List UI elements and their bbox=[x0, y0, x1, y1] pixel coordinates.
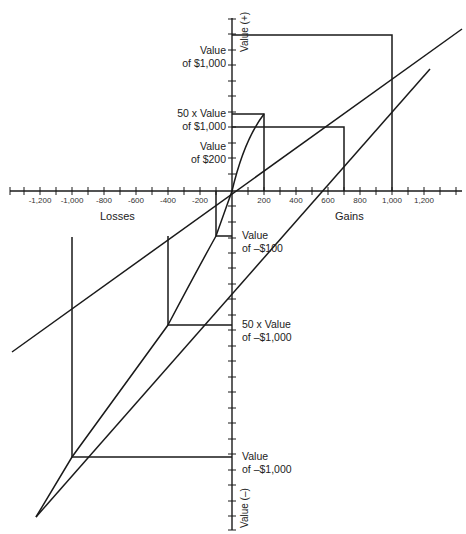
gains-label: Gains bbox=[335, 210, 364, 222]
annotation-line: of –$1,000 bbox=[242, 463, 292, 476]
x-tick-label: 200 bbox=[257, 196, 270, 205]
annotation-value-1000: Value of $1,000 bbox=[182, 44, 226, 70]
annotation-line: Value bbox=[191, 140, 226, 153]
x-tick-label: 600 bbox=[321, 196, 334, 205]
diagram-canvas bbox=[0, 0, 466, 534]
annotation-line: of $1,000 bbox=[182, 57, 226, 70]
annotation-value-neg100: Value of –$100 bbox=[242, 229, 283, 255]
annotation-value-neg1000: Value of –$1,000 bbox=[242, 450, 292, 476]
value-negative-label: Value (–) bbox=[239, 488, 250, 528]
annotation-50x-value-neg1000: 50 x Value of –$1,000 bbox=[242, 318, 292, 344]
annotation-line: of –$1,000 bbox=[242, 331, 292, 344]
annotation-value-200: Value of $200 bbox=[191, 140, 226, 166]
annotation-line: Value bbox=[242, 450, 292, 463]
x-tick-label: -1,000 bbox=[61, 196, 84, 205]
losses-label: Losses bbox=[100, 210, 135, 222]
value-positive-label: Value (+) bbox=[239, 12, 250, 52]
annotation-line: 50 x Value bbox=[177, 107, 226, 120]
guide-50x-value-neg1000 bbox=[168, 236, 232, 325]
x-tick-label: 1,200 bbox=[414, 196, 434, 205]
x-tick-label: 800 bbox=[353, 196, 366, 205]
annotation-line: 50 x Value bbox=[242, 318, 292, 331]
annotation-line: of $200 bbox=[191, 153, 226, 166]
x-tick-label: -200 bbox=[192, 196, 208, 205]
x-tick-label: -800 bbox=[96, 196, 112, 205]
x-tick-label: 1,000 bbox=[382, 196, 402, 205]
annotation-line: of $1,000 bbox=[177, 120, 226, 133]
guide-value-200 bbox=[232, 114, 264, 191]
x-tick-label: -1,200 bbox=[29, 196, 52, 205]
x-tick-label: -400 bbox=[160, 196, 176, 205]
x-tick-label: -600 bbox=[128, 196, 144, 205]
x-tick-label: 400 bbox=[289, 196, 302, 205]
annotation-50x-value-1000: 50 x Value of $1,000 bbox=[177, 107, 226, 133]
annotation-line: of –$100 bbox=[242, 242, 283, 255]
annotation-line: Value bbox=[242, 229, 283, 242]
guide-value-1000 bbox=[232, 35, 392, 191]
annotation-line: Value bbox=[182, 44, 226, 57]
